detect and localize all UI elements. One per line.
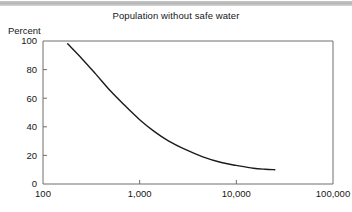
x-tick-label: 100	[35, 188, 51, 199]
y-tick-label: 20	[26, 150, 37, 161]
axes-group	[43, 41, 333, 184]
y-tick-label: 100	[21, 35, 37, 46]
y-tick-label: 60	[26, 93, 37, 104]
x-tick-group: 1001,00010,000100,000	[35, 180, 350, 199]
x-tick-label: 100,000	[316, 188, 350, 199]
axis-frame	[43, 41, 333, 184]
x-tick-label: 1,000	[128, 188, 152, 199]
chart-svg: 020406080100 1001,00010,000100,000	[0, 0, 352, 212]
data-curve-population-without-safe-water	[68, 44, 275, 170]
y-tick-label: 80	[26, 64, 37, 75]
x-tick-label: 10,000	[222, 188, 251, 199]
y-tick-label: 40	[26, 121, 37, 132]
chart-plot-area: 020406080100 1001,00010,000100,000	[0, 0, 352, 212]
